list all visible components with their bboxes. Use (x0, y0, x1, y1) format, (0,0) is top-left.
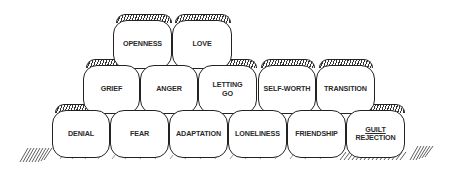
block-label: TRANSITION (324, 85, 367, 93)
block-label: ADAPTATION (176, 130, 221, 138)
block-label: DENIAL (68, 130, 94, 138)
block-label: LONELINESS (235, 130, 280, 138)
block-label: LOVE (192, 40, 211, 48)
block-letting-go: LETTING GO (198, 65, 257, 114)
block-fear: FEAR (110, 110, 169, 158)
block-love: LOVE (172, 20, 232, 69)
block-label-line2: REJECTION (355, 134, 395, 142)
block-label: ANGER (156, 85, 181, 93)
block-label: FEAR (130, 130, 149, 138)
block-transition: TRANSITION (316, 65, 375, 114)
block-guilt-rejection: GUILT REJECTION (346, 110, 405, 158)
block-label: SELF-WORTH (264, 85, 311, 93)
block-self-worth: SELF-WORTH (258, 65, 316, 114)
block-denial: DENIAL (52, 110, 110, 158)
block-grief: GRIEF (83, 65, 140, 114)
block-anger: ANGER (140, 65, 198, 114)
block-label-line2: GO (212, 90, 242, 98)
building-blocks-diagram: OPENNESS LOVE GRIEF ANGER LETTING GO SEL… (0, 0, 457, 178)
block-adaptation: ADAPTATION (169, 110, 228, 158)
block-label: FRIENDSHIP (295, 130, 338, 138)
block-friendship: FRIENDSHIP (287, 110, 346, 158)
block-openness: OPENNESS (113, 20, 172, 69)
block-label: GRIEF (101, 85, 122, 93)
block-loneliness: LONELINESS (228, 110, 287, 158)
block-label: OPENNESS (123, 40, 162, 48)
